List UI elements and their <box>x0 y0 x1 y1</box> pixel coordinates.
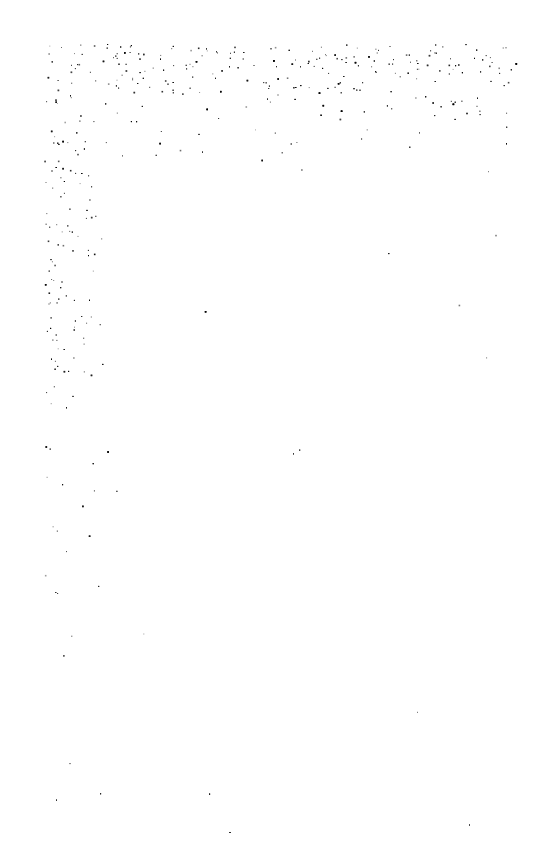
scan-noise <box>0 0 544 850</box>
blank-scanned-page <box>0 0 544 850</box>
